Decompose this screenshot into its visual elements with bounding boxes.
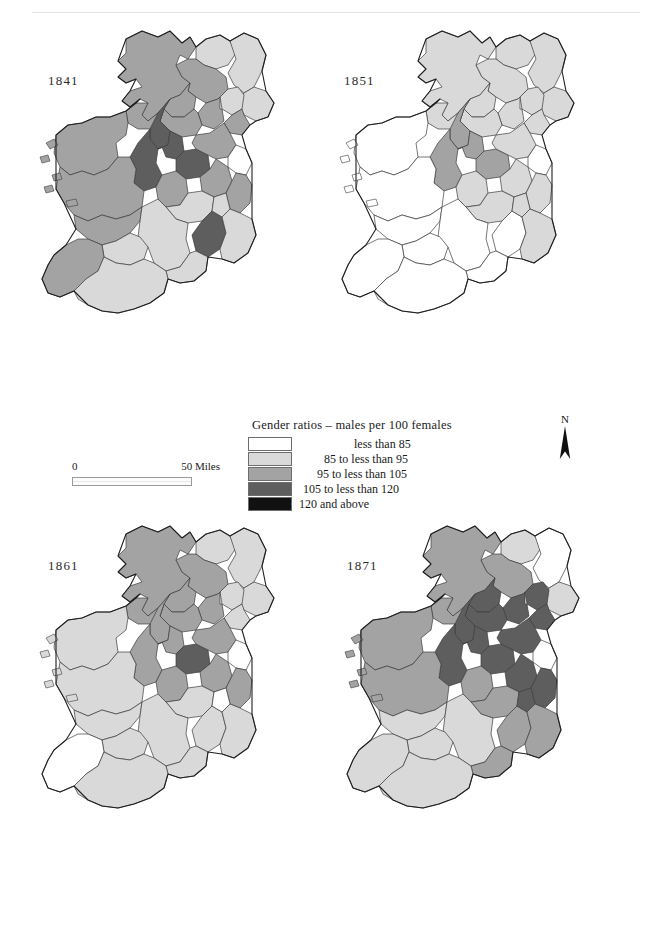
county-antrim[interactable] — [228, 33, 266, 93]
north-arrow-label: N — [548, 414, 582, 425]
county-wexford[interactable] — [525, 704, 561, 758]
offshore-island-1 — [40, 155, 50, 163]
north-arrow: N — [548, 414, 582, 464]
legend-swatch-3 — [248, 482, 292, 496]
scale-bar: 0 50 Miles — [72, 460, 192, 486]
map-panel-1851[interactable]: 1851 — [330, 25, 620, 415]
scale-bar-labels: 0 50 Miles — [72, 460, 192, 475]
map-year-label-1851: 1851 — [344, 73, 375, 89]
figure-page: 1841 1851 1861 1871 Gender ratios – male… — [0, 0, 665, 925]
offshore-island-3 — [349, 680, 359, 688]
legend-label-0: less than 85 — [354, 437, 411, 451]
scale-bar-graphic — [72, 477, 192, 486]
legend-row: 105 to less than 120 — [248, 481, 498, 496]
legend-label-4: 120 and above — [299, 497, 369, 511]
map-panel-1841[interactable]: 1841 — [30, 25, 320, 415]
county-wexford[interactable] — [520, 209, 556, 263]
offshore-island-1 — [340, 155, 350, 163]
county-wexford[interactable] — [220, 209, 256, 263]
offshore-island-1 — [40, 650, 50, 658]
legend-label-2: 95 to less than 105 — [317, 467, 407, 481]
ireland-map-1861[interactable] — [30, 520, 320, 910]
county-antrim[interactable] — [228, 528, 266, 588]
legend-row: 85 to less than 95 — [248, 451, 498, 466]
offshore-island-3 — [44, 680, 54, 688]
legend-swatch-4 — [248, 497, 292, 511]
north-arrow-icon — [557, 426, 573, 460]
legend-swatch-2 — [248, 467, 292, 481]
county-antrim[interactable] — [528, 33, 566, 93]
legend-label-1: 85 to less than 95 — [324, 452, 408, 466]
legend-title: Gender ratios – males per 100 females — [252, 418, 498, 433]
county-antrim[interactable] — [533, 528, 571, 588]
offshore-island-3 — [344, 185, 354, 193]
legend-swatch-0 — [248, 437, 292, 451]
county-wexford[interactable] — [220, 704, 256, 758]
scale-bar-max-label: 50 Miles — [181, 460, 220, 472]
legend-swatch-1 — [248, 452, 292, 466]
map-year-label-1841: 1841 — [48, 73, 79, 89]
legend-row: 120 and above — [248, 496, 498, 511]
ireland-map-1871[interactable] — [335, 520, 625, 910]
top-divider — [32, 12, 640, 13]
county-layer — [345, 526, 579, 808]
map-year-label-1871: 1871 — [347, 558, 378, 574]
offshore-island-3 — [44, 185, 54, 193]
legend-rows: less than 85 85 to less than 95 95 to le… — [248, 436, 498, 511]
legend-label-3: 105 to less than 120 — [303, 482, 399, 496]
map-panel-1861[interactable]: 1861 — [30, 520, 320, 910]
map-year-label-1861: 1861 — [48, 558, 79, 574]
county-layer — [340, 31, 574, 313]
legend-row: less than 85 — [248, 436, 498, 451]
offshore-island-1 — [345, 650, 355, 658]
scale-bar-min-label: 0 — [72, 460, 78, 472]
legend-row: 95 to less than 105 — [248, 466, 498, 481]
map-legend: Gender ratios – males per 100 females le… — [248, 418, 498, 511]
map-panel-1871[interactable]: 1871 — [335, 520, 625, 910]
